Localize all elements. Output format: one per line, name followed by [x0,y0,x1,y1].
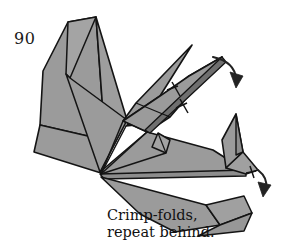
neck-head-group [123,45,226,133]
origami-diagram: 90 Crimp-folds, repeat behind. [0,0,281,249]
crimp-arrow-neck-head [230,72,243,88]
right-fin-inner [236,114,243,155]
crimp-arrow-tail-head [258,182,271,197]
step-number: 90 [14,31,35,47]
caption-line-1: Crimp-folds, [107,207,277,224]
crimp-arrow-tail [258,170,271,197]
caption: Crimp-folds, repeat behind. [107,207,277,241]
caption-line-2: repeat behind. [107,224,277,241]
right-fin-group [222,114,258,174]
